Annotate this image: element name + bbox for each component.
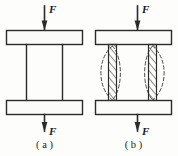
column-member-left-b xyxy=(109,45,117,101)
force-arrow-top-b xyxy=(135,6,141,31)
panel-b-drawing xyxy=(89,0,178,156)
force-label-bottom-a: F xyxy=(49,126,56,137)
force-label-top-a: F xyxy=(49,4,56,15)
panel-caption-a: ( a ) xyxy=(0,140,89,151)
panel-a-drawing xyxy=(0,0,89,156)
force-arrow-bottom-b xyxy=(135,115,141,133)
plate-top-a xyxy=(7,31,83,45)
column-a xyxy=(27,45,63,101)
column-buckling-figure: F F ( a ) xyxy=(0,0,178,156)
force-arrow-top-a xyxy=(42,6,48,31)
panel-b: F F ( b ) xyxy=(89,0,178,156)
force-arrow-bottom-a xyxy=(42,115,48,133)
plate-top-b xyxy=(96,31,172,45)
panel-a: F F ( a ) xyxy=(0,0,89,156)
plate-bottom-a xyxy=(7,101,83,115)
panel-caption-b: ( b ) xyxy=(89,140,178,151)
force-label-top-b: F xyxy=(142,4,149,15)
plate-bottom-b xyxy=(96,101,172,115)
column-member-right-b xyxy=(149,45,157,101)
force-label-bottom-b: F xyxy=(142,126,149,137)
